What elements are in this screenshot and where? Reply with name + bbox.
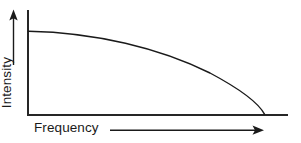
intensity-frequency-chart: Frequency Intensity <box>0 0 301 143</box>
y-axis-label: Intensity <box>0 57 14 108</box>
x-axis-label: Frequency <box>34 121 99 135</box>
intensity-curve <box>29 31 265 114</box>
arrow-right-icon <box>110 126 264 135</box>
